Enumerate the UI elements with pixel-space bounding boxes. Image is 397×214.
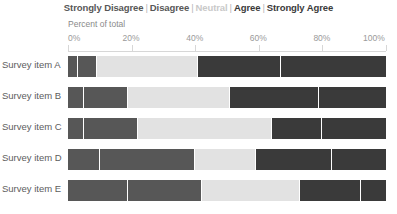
stacked-bar xyxy=(68,149,386,170)
bar-segment-agree[interactable] xyxy=(230,87,319,108)
axis-tick-mark xyxy=(195,45,196,51)
bar-segment-agree[interactable] xyxy=(198,56,281,77)
legend-item-neutral[interactable]: Neutral xyxy=(196,2,228,13)
bar-segment-strongly-disagree[interactable] xyxy=(68,56,78,77)
axis-tick-mark xyxy=(322,45,323,51)
bar-segment-neutral[interactable] xyxy=(202,180,301,201)
category-label-survey-item-b: Survey item B xyxy=(2,90,64,101)
bar-segment-strongly-agree[interactable] xyxy=(319,87,386,108)
category-label-survey-item-a: Survey item A xyxy=(2,59,64,70)
bar-segment-disagree[interactable] xyxy=(84,87,129,108)
category-label-survey-item-e: Survey item E xyxy=(2,183,64,194)
chart-legend: Strongly Disagree|Disagree|Neutral|Agree… xyxy=(0,2,397,13)
bar-segment-agree[interactable] xyxy=(300,180,360,201)
axis-tick-label-0pct: 0% xyxy=(68,33,80,43)
bar-segment-agree[interactable] xyxy=(256,149,332,170)
bar-segment-strongly-disagree[interactable] xyxy=(68,87,84,108)
bar-segment-strongly-agree[interactable] xyxy=(332,149,386,170)
bar-segment-disagree[interactable] xyxy=(78,56,97,77)
stacked-bar xyxy=(68,56,386,77)
axis-title: Percent of total xyxy=(68,19,125,29)
bar-segment-strongly-agree[interactable] xyxy=(322,118,386,139)
chart-row: Survey item E xyxy=(0,177,397,208)
legend-item-strongly-disagree[interactable]: Strongly Disagree xyxy=(64,2,144,13)
bar-segment-strongly-agree[interactable] xyxy=(361,180,386,201)
axis-tick-mark xyxy=(68,45,69,51)
bar-segment-strongly-disagree[interactable] xyxy=(68,149,100,170)
bar-chart-plot: Survey item ASurvey item BSurvey item CS… xyxy=(0,53,397,214)
bar-segment-strongly-agree[interactable] xyxy=(281,56,386,77)
axis-tick-mark xyxy=(386,45,387,51)
axis-tick-label-60pct: 60% xyxy=(250,33,267,43)
stacked-bar xyxy=(68,87,386,108)
stacked-bar xyxy=(68,118,386,139)
bar-segment-strongly-disagree[interactable] xyxy=(68,180,128,201)
chart-row: Survey item A xyxy=(0,53,397,84)
bar-segment-disagree[interactable] xyxy=(128,180,201,201)
category-label-survey-item-d: Survey item D xyxy=(2,152,64,163)
bar-segment-neutral[interactable] xyxy=(97,56,199,77)
stacked-bar xyxy=(68,180,386,201)
chart-row: Survey item B xyxy=(0,84,397,115)
axis-tick-label-100pct: 100% xyxy=(363,33,385,43)
category-label-survey-item-c: Survey item C xyxy=(2,121,64,132)
bar-segment-neutral[interactable] xyxy=(195,149,255,170)
chart-row: Survey item C xyxy=(0,115,397,146)
bar-segment-agree[interactable] xyxy=(272,118,323,139)
axis-tick-label-20pct: 20% xyxy=(123,33,140,43)
axis-line xyxy=(68,51,386,52)
legend-item-strongly-agree[interactable]: Strongly Agree xyxy=(267,2,333,13)
chart-row: Survey item D xyxy=(0,146,397,177)
bar-segment-neutral[interactable] xyxy=(138,118,272,139)
axis-tick-labels: 0%20%40%60%80%100% xyxy=(0,33,397,45)
axis-tick-label-40pct: 40% xyxy=(186,33,203,43)
legend-item-agree[interactable]: Agree xyxy=(234,2,260,13)
bar-segment-strongly-disagree[interactable] xyxy=(68,118,84,139)
bar-segment-disagree[interactable] xyxy=(100,149,195,170)
legend-item-disagree[interactable]: Disagree xyxy=(150,2,189,13)
axis-tick-mark xyxy=(259,45,260,51)
axis-tick-mark xyxy=(132,45,133,51)
axis-tick-label-80pct: 80% xyxy=(313,33,330,43)
bar-segment-disagree[interactable] xyxy=(84,118,138,139)
bar-segment-neutral[interactable] xyxy=(128,87,230,108)
